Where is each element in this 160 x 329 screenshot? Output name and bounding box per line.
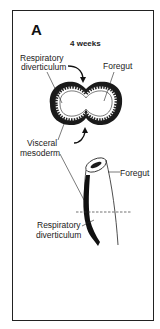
leader-visceral-mesoderm [60,154,84,200]
foregut-tube [76,155,131,246]
arrow-bottom-icon [74,132,85,143]
diagram-drawing [0,0,160,329]
cross-section [50,82,122,125]
arrow-top-icon [68,66,83,78]
